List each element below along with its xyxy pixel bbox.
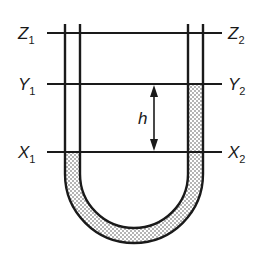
label-h: h bbox=[138, 109, 147, 128]
label-z2: Z2 bbox=[227, 24, 245, 46]
label-x1: X1 bbox=[17, 143, 35, 165]
label-x2: X2 bbox=[227, 143, 245, 165]
liquid-fill bbox=[65, 84, 203, 243]
u-tube-diagram: Z1 Z2 Y1 Y2 X1 X2 h bbox=[0, 0, 265, 258]
height-arrow bbox=[150, 85, 158, 151]
label-y2: Y2 bbox=[228, 75, 245, 97]
label-y1: Y1 bbox=[18, 75, 35, 97]
label-z1: Z1 bbox=[17, 24, 35, 46]
